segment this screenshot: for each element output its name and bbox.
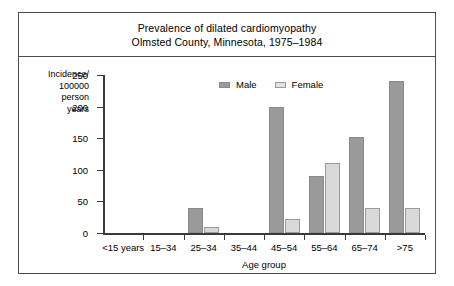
bar-male-6 bbox=[349, 137, 364, 233]
y-tick: 200 bbox=[97, 107, 103, 108]
y-tick: 50 bbox=[97, 201, 103, 202]
bar-female-6 bbox=[365, 208, 380, 233]
y-tick: 250 bbox=[97, 75, 103, 76]
bar-female-4 bbox=[285, 219, 300, 233]
x-tick-label: 65–74 bbox=[351, 242, 377, 253]
x-tick bbox=[304, 235, 305, 240]
bar-male-5 bbox=[309, 176, 324, 233]
x-tick-label: 15–34 bbox=[150, 242, 176, 253]
x-tick bbox=[264, 235, 265, 240]
bar-male-7 bbox=[389, 81, 404, 233]
bar-male-4 bbox=[269, 107, 284, 233]
x-tick-label: <15 years bbox=[102, 242, 144, 253]
bar-female-2 bbox=[204, 227, 219, 233]
y-axis-line bbox=[103, 75, 105, 235]
y-tick-label: 200 bbox=[72, 101, 88, 112]
y-tick-label: 250 bbox=[72, 70, 88, 81]
y-tick-label: 0 bbox=[83, 228, 88, 239]
bar-female-5 bbox=[325, 163, 340, 233]
y-tick: 100 bbox=[97, 170, 103, 171]
chart-title-block: Prevalence of dilated cardiomyopathy Olm… bbox=[19, 13, 435, 57]
chart-figure: Prevalence of dilated cardiomyopathy Olm… bbox=[18, 12, 436, 274]
bar-female-7 bbox=[405, 208, 420, 233]
x-tick bbox=[143, 235, 144, 240]
chart-title-line-1: Prevalence of dilated cardiomyopathy bbox=[138, 21, 317, 35]
chart-title-line-2: Olmsted County, Minnesota, 1975–1984 bbox=[132, 35, 323, 49]
x-tick bbox=[385, 235, 386, 240]
y-tick-label: 150 bbox=[72, 133, 88, 144]
y-tick-label: 50 bbox=[77, 196, 88, 207]
x-axis-title: Age group bbox=[103, 259, 425, 270]
x-tick-label: 25–34 bbox=[190, 242, 216, 253]
x-tick-label: 35–44 bbox=[231, 242, 257, 253]
y-tick: 150 bbox=[97, 138, 103, 139]
x-tick bbox=[224, 235, 225, 240]
x-tick-label: 55–64 bbox=[311, 242, 337, 253]
y-tick-label: 100 bbox=[72, 164, 88, 175]
x-tick-label: 45–54 bbox=[271, 242, 297, 253]
x-tick bbox=[345, 235, 346, 240]
y-axis-title-line-2: 100000 bbox=[27, 81, 89, 93]
bar-male-2 bbox=[188, 208, 203, 233]
x-tick-label: >75 bbox=[397, 242, 413, 253]
plot-area: 050100150200250 <15 years15–3425–3435–44… bbox=[103, 75, 425, 235]
y-tick: 0 bbox=[97, 233, 103, 234]
x-tick bbox=[425, 235, 426, 240]
x-tick bbox=[184, 235, 185, 240]
